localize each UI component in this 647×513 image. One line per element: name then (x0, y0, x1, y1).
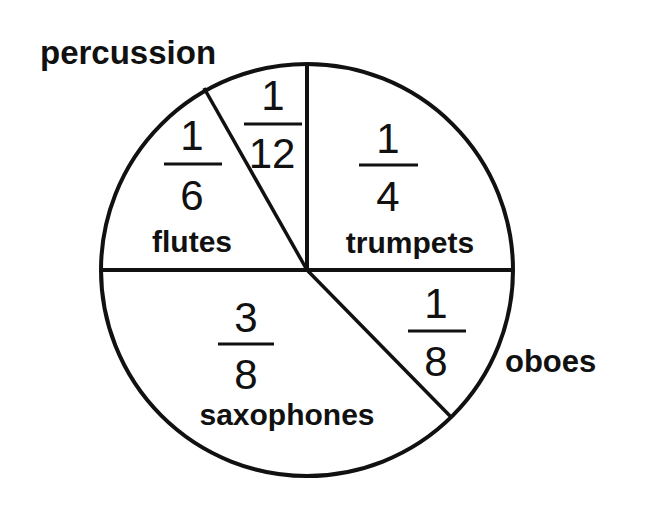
percussion-numerator: 1 (261, 72, 284, 119)
label-saxophones: saxophones (199, 398, 374, 431)
flutes-numerator: 1 (180, 112, 203, 159)
pie-chart: percussion 1 12 1 6 flutes 1 4 trumpets … (0, 0, 647, 513)
label-flutes: flutes (152, 225, 232, 258)
saxophones-denominator: 8 (234, 351, 257, 398)
oboes-denominator: 8 (424, 338, 447, 385)
saxophones-numerator: 3 (234, 294, 257, 341)
label-oboes: oboes (505, 344, 596, 379)
label-trumpets: trumpets (346, 226, 474, 259)
trumpets-numerator: 1 (376, 115, 399, 162)
oboes-numerator: 1 (424, 280, 447, 327)
flutes-denominator: 6 (180, 172, 203, 219)
percussion-denominator: 12 (249, 130, 296, 177)
trumpets-denominator: 4 (376, 173, 399, 220)
label-percussion: percussion (40, 34, 216, 71)
